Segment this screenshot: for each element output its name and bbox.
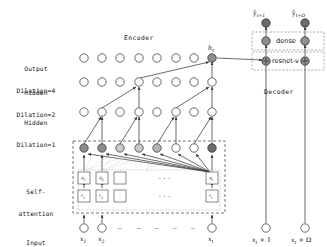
context-to-decoder-edge (217, 58, 262, 60)
dense-block-label: dense (276, 37, 296, 45)
yhat-sub: t+1 (257, 13, 266, 18)
attention-cell-qt: qt (209, 175, 213, 182)
decoder-input-label-1: xt + 1 (252, 236, 271, 245)
q-sub: 2 (102, 178, 104, 182)
dilation4-edges (140, 62, 212, 78)
decoder-input-node-1 (262, 224, 270, 232)
row-label-line1: Self- (2, 188, 70, 195)
x-sub: t (212, 239, 214, 244)
x-sub: 1 (84, 239, 87, 244)
decoder-input-label-2: xt + Ω (291, 236, 311, 245)
context-vector-label: ht (208, 44, 214, 53)
context-vector-node (208, 54, 216, 62)
yhat-sub: t+Ω (296, 13, 306, 18)
dilation1-edges (84, 117, 212, 144)
row-label-line1: Hidden (2, 119, 70, 126)
figure-root: Output Dilation=4 Hidden Dilation=2 Hidd… (0, 0, 327, 247)
row-label-line1: Input (2, 239, 70, 246)
attention-cell-rt: rt (209, 193, 212, 200)
row-label-hidden-dilation-1: Hidden Dilation=1 (2, 104, 70, 163)
input-dash-2: — (137, 224, 142, 231)
hidden1-row-nodes (80, 108, 216, 116)
row-label-line1: Output (2, 65, 70, 72)
input-dash-3: — (155, 224, 160, 231)
output-row-nodes (80, 54, 216, 62)
decoder-title: Decoder (264, 88, 294, 96)
attention-cell-q1: q1 (81, 175, 86, 182)
row-label-line2: Dilation=1 (2, 141, 70, 148)
encoder-title: Encoder (124, 34, 154, 42)
row-label-line1: Hidden (2, 89, 70, 96)
decoder-input-node-2 (301, 224, 309, 232)
q-sub: t (212, 178, 213, 182)
h-sub: t (212, 48, 214, 53)
input-label-x2: x2 (98, 235, 105, 244)
r-sub: 1 (83, 196, 85, 200)
resnet-block-label: resnet-v (272, 57, 299, 65)
x-suffix: + Ω (296, 236, 311, 244)
q-sub: 1 (84, 178, 86, 182)
x-sub: 2 (102, 239, 105, 244)
dilation2-edges (102, 87, 212, 108)
attention-ellipsis-bottom: ... (158, 191, 172, 198)
x-suffix: + 1 (257, 236, 270, 244)
row-label-input: Input (2, 224, 70, 247)
attention-cell-r1: r1 (81, 193, 85, 200)
r-sub: t (211, 196, 212, 200)
attention-cell-r2: r2 (99, 193, 103, 200)
decoder-output-label-1: ŷt+1 (253, 9, 265, 18)
attention-ellipsis-top: ... (158, 173, 172, 180)
input-label-xt: xt (208, 235, 213, 244)
input-dash-5: — (191, 224, 196, 231)
input-dash-4: — (173, 224, 178, 231)
decoder-output-label-2: ŷt+Ω (292, 9, 305, 18)
attention-cell-q2: q2 (99, 175, 104, 182)
row-label-line2: attention (2, 210, 70, 217)
input-label-x1: x1 (80, 235, 87, 244)
attention-row-nodes (80, 144, 216, 152)
r-sub: 2 (101, 196, 103, 200)
input-dash-1: — (118, 224, 123, 231)
hidden2-row-nodes (80, 78, 216, 86)
